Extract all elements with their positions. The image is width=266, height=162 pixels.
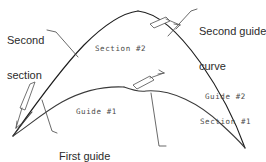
- callout-second-section-line2: section: [7, 70, 44, 82]
- inline-label-section-1: Section #1: [200, 118, 251, 126]
- leader-first-section: [151, 93, 166, 146]
- callout-second-section: Second section: [7, 12, 44, 104]
- leader-second-guide-curve: [168, 9, 197, 36]
- leader-first-guide-curve: [42, 100, 57, 133]
- tangent-arrow-middle-marker: [133, 70, 164, 89]
- callout-first-guide-curve: First guide curve: [59, 128, 110, 162]
- callout-second-guide-curve-line1: Second guide: [199, 26, 266, 38]
- callout-second-section-line1: Second: [7, 35, 44, 47]
- callout-second-guide-curve-line2: curve: [199, 61, 266, 73]
- loft-surface-diagram: Second section Second guide curve First …: [0, 0, 266, 162]
- inline-label-guide-1: Guide #1: [76, 108, 117, 116]
- callout-second-guide-curve: Second guide curve: [199, 3, 266, 95]
- inline-label-guide-2: Guide #2: [205, 93, 246, 101]
- leader-second-section: [47, 30, 78, 57]
- tangent-arrow-upper-right-marker: [150, 17, 180, 29]
- callout-first-guide-curve-line1: First guide: [59, 151, 110, 162]
- callout-first-section: First section: [168, 140, 227, 162]
- inline-label-section-2: Section #2: [95, 45, 146, 53]
